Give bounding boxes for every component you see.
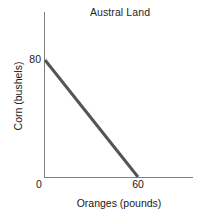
y-axis-title: Corn (bushels) xyxy=(12,41,24,151)
x-axis-tick-label-60: 60 xyxy=(128,178,148,190)
x-axis-tick-label-0: 0 xyxy=(30,178,48,190)
y-axis-tick-label-80: 80 xyxy=(23,53,41,65)
ppf-line xyxy=(45,60,138,177)
x-axis-title: Oranges (pounds) xyxy=(44,197,194,209)
chart-figure: Austral Land 80 0 60 Oranges (pounds) Co… xyxy=(0,0,206,220)
